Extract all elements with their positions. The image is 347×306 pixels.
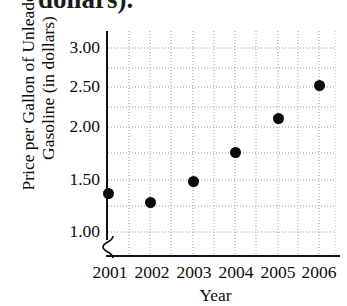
data-point-2005 bbox=[273, 113, 284, 124]
y-tick-label-1-50: 1.50 bbox=[48, 169, 100, 190]
data-point-2004 bbox=[230, 147, 241, 158]
y-axis-line bbox=[106, 31, 108, 240]
y-tick-label-3-00: 3.00 bbox=[48, 37, 100, 58]
y-tick-label-2-00: 2.00 bbox=[48, 116, 100, 137]
y-axis-break-icon bbox=[99, 236, 119, 258]
y-tick-labels: 1.001.502.002.503.00 bbox=[44, 0, 100, 306]
x-axis-title-text: Year bbox=[199, 285, 231, 305]
gridlines bbox=[108, 31, 336, 257]
x-tick-label-2001: 2001 bbox=[93, 262, 128, 283]
x-axis-line bbox=[106, 255, 340, 257]
data-point-2002 bbox=[145, 197, 156, 208]
y-axis-title-line-1: Price per Gallon of Unleaded bbox=[19, 0, 39, 191]
x-tick-label-2004: 2004 bbox=[219, 262, 254, 283]
x-tick-label-2003: 2003 bbox=[177, 262, 212, 283]
data-point-2003 bbox=[188, 176, 199, 187]
data-point-2006 bbox=[314, 80, 325, 91]
x-tick-label-2006: 2006 bbox=[302, 262, 337, 283]
y-tick-label-1-00: 1.00 bbox=[48, 221, 100, 242]
x-tick-label-2005: 2005 bbox=[261, 262, 296, 283]
x-axis-title: Year bbox=[0, 285, 347, 306]
x-tick-label-2002: 2002 bbox=[135, 262, 170, 283]
plot-area bbox=[108, 31, 336, 257]
y-tick-label-2-50: 2.50 bbox=[48, 76, 100, 97]
data-point-2001 bbox=[103, 188, 114, 199]
gasoline-price-scatter-figure: dollars). Price per Gallon of Unleaded G… bbox=[0, 0, 347, 306]
